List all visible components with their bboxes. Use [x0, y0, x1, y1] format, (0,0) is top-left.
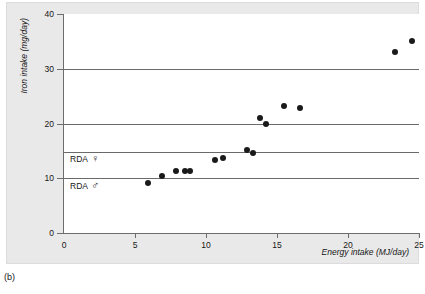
y-axis-tick-label: 40: [45, 9, 54, 19]
male-symbol-icon: ♂: [91, 180, 99, 191]
x-axis-tick: [419, 233, 420, 238]
x-axis-tick: [206, 233, 207, 238]
y-axis-tick-label: 30: [45, 64, 54, 74]
x-axis-tick: [348, 233, 349, 238]
x-axis-tick-label: 15: [272, 240, 281, 250]
x-axis-tick-label: 0: [62, 240, 67, 250]
data-point: [159, 173, 165, 179]
data-point: [250, 150, 256, 156]
figure-panel: Iron intake (mg/day) Energy intake (MJ/d…: [0, 0, 425, 294]
data-point: [257, 115, 263, 121]
data-point: [409, 38, 415, 44]
reference-line: [64, 152, 419, 153]
reference-line: [64, 124, 419, 125]
data-point: [263, 121, 269, 127]
reference-line: [64, 178, 419, 179]
female-symbol-icon: ♀: [91, 153, 99, 164]
x-axis-tick: [277, 233, 278, 238]
plot-area: RDA♀RDA♂0102030400510152025: [63, 14, 419, 234]
rda-annotation: RDA♂: [70, 180, 99, 191]
y-axis-title: Iron intake (mg/day): [19, 18, 29, 94]
y-axis-tick: [57, 69, 64, 70]
data-point: [187, 168, 193, 174]
y-axis-tick-label: 20: [45, 119, 54, 129]
y-axis-tick: [57, 178, 64, 179]
y-axis-tick: [57, 14, 64, 15]
data-point: [145, 180, 151, 186]
rda-annotation: RDA♀: [70, 154, 99, 165]
y-axis-tick: [57, 124, 64, 125]
x-axis-title: Energy intake (MJ/day): [322, 247, 409, 257]
chart-outer-panel: Iron intake (mg/day) Energy intake (MJ/d…: [6, 2, 419, 264]
x-axis-tick: [135, 233, 136, 238]
figure-caption: (b): [4, 272, 15, 282]
y-axis-tick-label: 10: [45, 173, 54, 183]
y-axis-tick-label: 0: [49, 228, 54, 238]
x-axis-tick-label: 10: [201, 240, 210, 250]
rda-annotation-text: RDA: [70, 155, 88, 164]
rda-annotation-text: RDA: [70, 182, 88, 191]
data-point: [220, 155, 226, 161]
data-point: [281, 103, 287, 109]
x-axis-tick-label: 5: [133, 240, 138, 250]
data-point: [173, 168, 179, 174]
y-axis-tick: [57, 233, 64, 234]
data-point: [212, 157, 218, 163]
reference-line: [64, 69, 419, 70]
plot-inner: RDA♀RDA♂0102030400510152025: [64, 14, 419, 233]
x-axis-tick-label: 20: [343, 240, 352, 250]
data-point: [392, 49, 398, 55]
x-axis-tick-label: 25: [414, 240, 423, 250]
data-point: [297, 105, 303, 111]
